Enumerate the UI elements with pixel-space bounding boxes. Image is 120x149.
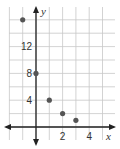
data-point: [33, 71, 38, 76]
grid: [9, 7, 115, 140]
y-tick-label: 12: [21, 41, 33, 52]
y-axis-arrow-up: [33, 6, 39, 13]
x-axis-arrow-left: [4, 124, 11, 130]
y-axis-label: y: [40, 5, 46, 17]
x-tick-label: 2: [60, 131, 66, 142]
data-point: [73, 118, 78, 123]
data-point: [20, 17, 25, 22]
data-point: [47, 98, 52, 103]
x-tick-label: 4: [86, 131, 92, 142]
y-tick-label: 4: [26, 95, 32, 106]
scatter-chart: 244812 x y: [0, 0, 120, 149]
data-point: [60, 111, 65, 116]
y-tick-label: 8: [26, 68, 32, 79]
x-axis-label: x: [105, 130, 111, 142]
y-axis-arrow-down: [33, 139, 39, 146]
axes: [4, 6, 116, 146]
